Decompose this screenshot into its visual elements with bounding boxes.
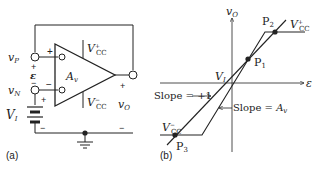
p1-label: P1 (254, 56, 266, 70)
minus-input-pin (59, 87, 65, 93)
vi-source-label: VI (6, 108, 18, 123)
minus-input-sign: − (46, 79, 52, 90)
battery-plus-sign: + (41, 95, 46, 105)
out-minus-sign: − (119, 123, 124, 133)
plus-input-pin (59, 54, 65, 60)
vn-label: vN (8, 84, 21, 98)
vcc-pos-label: V+CC (87, 42, 107, 57)
vcc-pos-sat-label: V+CC (290, 18, 310, 33)
x-axis-label: ε (306, 77, 312, 90)
p2-label: P2 (262, 15, 274, 29)
slope-gain-label: Slope = Av (233, 102, 287, 115)
panel-a-label: (a) (6, 150, 18, 161)
ground-node (82, 130, 87, 135)
output-terminal (129, 71, 137, 79)
vp-terminal (31, 53, 39, 61)
vp-label: vP (8, 51, 19, 65)
vo-label: vO (118, 98, 130, 112)
eps-minus-sign: − (31, 78, 36, 88)
ground-icon (77, 142, 93, 148)
transfer-curve (160, 32, 305, 135)
out-plus-sign: + (120, 81, 125, 91)
battery-minus-sign: − (40, 123, 45, 133)
vcc-neg-label: V−CC (87, 96, 107, 111)
slope-unity-label: Slope = +1 (154, 90, 212, 101)
y-axis-label: vO (226, 5, 238, 19)
battery-icon (27, 107, 43, 122)
point-p1 (245, 56, 250, 61)
vcc-neg-sat-label: V−CC (162, 121, 182, 136)
unity-slope-line (167, 20, 286, 145)
figure-canvas: vP vN + ε − + − Av V+CC V−CC vO + − + − … (0, 0, 325, 172)
plus-input-sign: + (47, 46, 53, 57)
p3-label: P3 (176, 140, 188, 154)
vi-intercept-label: VI (215, 70, 226, 84)
gain-label: Av (65, 70, 78, 84)
panel-b-label: (b) (160, 150, 172, 161)
point-p2 (272, 29, 277, 34)
